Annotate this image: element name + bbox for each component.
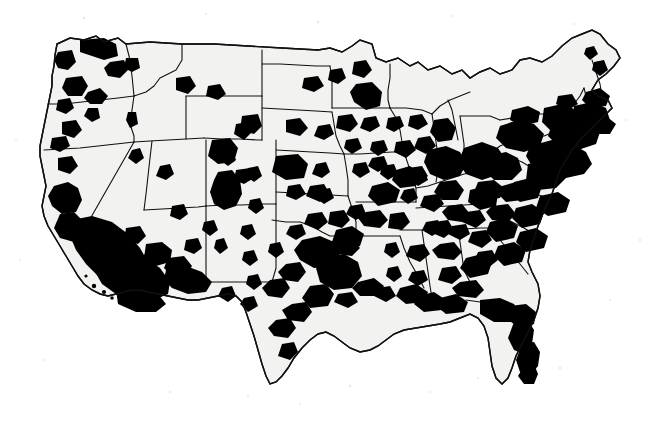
us-choropleth-map <box>0 0 662 422</box>
figure-root <box>0 0 662 422</box>
